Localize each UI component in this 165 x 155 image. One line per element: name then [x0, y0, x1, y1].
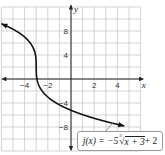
svg-text:−4: −4 — [20, 81, 30, 90]
svg-text:x: x — [141, 80, 146, 90]
radical-index: 3 — [119, 133, 122, 138]
function-label-prefix: j(x) = −5 — [83, 136, 119, 146]
function-label-suffix: + 2 — [145, 136, 157, 146]
radical-sign: 3√ — [119, 136, 124, 146]
svg-text:−2: −2 — [43, 81, 53, 90]
axes: xy — [1, 4, 145, 151]
svg-text:4: 4 — [115, 81, 120, 90]
svg-text:4: 4 — [64, 51, 69, 60]
svg-text:8: 8 — [64, 27, 69, 36]
function-label: j(x) = −5 3√x + 3 + 2 — [77, 131, 163, 151]
radicand: x + 3 — [125, 136, 145, 147]
svg-text:−8: −8 — [59, 123, 69, 132]
svg-text:y: y — [73, 4, 78, 14]
svg-text:2: 2 — [92, 81, 97, 90]
